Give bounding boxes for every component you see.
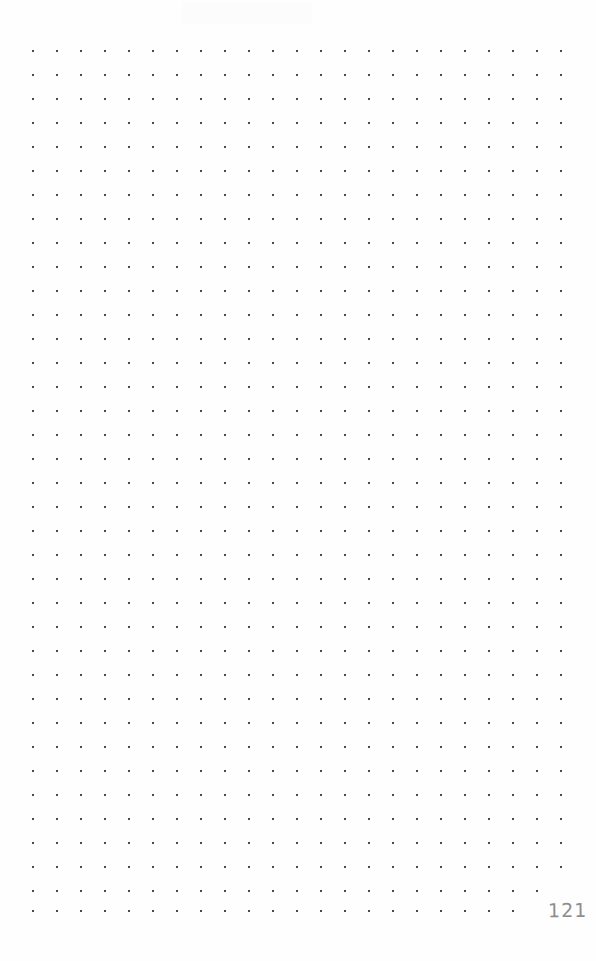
- grid-dot: [416, 266, 418, 268]
- grid-dot: [344, 458, 346, 460]
- grid-dot: [512, 818, 514, 820]
- grid-dot: [296, 50, 298, 52]
- grid-dot: [320, 554, 322, 556]
- grid-dot: [536, 74, 538, 76]
- grid-dot: [80, 770, 82, 772]
- grid-dot: [224, 626, 226, 628]
- grid-dot: [320, 674, 322, 676]
- grid-dot: [104, 626, 106, 628]
- grid-dot: [128, 746, 130, 748]
- grid-dot: [56, 146, 58, 148]
- grid-dot: [488, 530, 490, 532]
- grid-dot: [248, 554, 250, 556]
- grid-dot: [80, 554, 82, 556]
- grid-dot: [248, 890, 250, 892]
- grid-dot: [344, 722, 346, 724]
- grid-dot: [440, 434, 442, 436]
- grid-dot: [224, 194, 226, 196]
- grid-dot: [416, 842, 418, 844]
- grid-dot: [344, 266, 346, 268]
- grid-dot: [296, 122, 298, 124]
- grid-dot: [104, 842, 106, 844]
- grid-dot: [368, 506, 370, 508]
- grid-dot: [416, 602, 418, 604]
- grid-dot: [56, 410, 58, 412]
- grid-dot: [344, 770, 346, 772]
- grid-dot: [560, 434, 562, 436]
- grid-dot: [440, 650, 442, 652]
- grid-dot: [248, 818, 250, 820]
- grid-dot: [56, 362, 58, 364]
- grid-dot: [344, 314, 346, 316]
- grid-dot: [416, 314, 418, 316]
- grid-dot: [80, 458, 82, 460]
- grid-dot: [488, 266, 490, 268]
- grid-dot: [224, 890, 226, 892]
- grid-dot: [392, 722, 394, 724]
- grid-dot: [416, 386, 418, 388]
- grid-dot: [320, 866, 322, 868]
- grid-dot: [152, 554, 154, 556]
- grid-dot: [56, 386, 58, 388]
- grid-dot: [440, 530, 442, 532]
- grid-dot: [32, 458, 34, 460]
- grid-dot: [296, 338, 298, 340]
- grid-dot: [176, 98, 178, 100]
- grid-dot: [416, 650, 418, 652]
- grid-dot: [200, 74, 202, 76]
- grid-dot: [80, 266, 82, 268]
- grid-dot: [560, 458, 562, 460]
- grid-dot: [392, 242, 394, 244]
- grid-dot: [176, 410, 178, 412]
- grid-dot: [200, 722, 202, 724]
- grid-dot: [416, 698, 418, 700]
- grid-dot: [320, 194, 322, 196]
- grid-dot: [560, 770, 562, 772]
- grid-dot: [512, 482, 514, 484]
- grid-dot: [464, 506, 466, 508]
- grid-dot: [56, 554, 58, 556]
- grid-dot: [176, 266, 178, 268]
- grid-dot: [320, 530, 322, 532]
- grid-dot: [440, 194, 442, 196]
- grid-dot: [200, 698, 202, 700]
- grid-dot: [296, 554, 298, 556]
- grid-dot: [296, 290, 298, 292]
- grid-dot: [176, 386, 178, 388]
- grid-dot: [80, 338, 82, 340]
- grid-dot: [272, 842, 274, 844]
- grid-dot: [560, 362, 562, 364]
- grid-dot: [56, 770, 58, 772]
- grid-dot: [248, 650, 250, 652]
- grid-dot: [344, 602, 346, 604]
- grid-dot: [296, 890, 298, 892]
- grid-dot: [176, 722, 178, 724]
- grid-dot: [200, 746, 202, 748]
- grid-dot: [560, 650, 562, 652]
- grid-dot: [224, 602, 226, 604]
- grid-dot: [560, 722, 562, 724]
- grid-dot: [512, 50, 514, 52]
- grid-dot: [464, 650, 466, 652]
- grid-dot: [368, 458, 370, 460]
- grid-dot: [128, 674, 130, 676]
- grid-dot: [32, 890, 34, 892]
- grid-dot: [248, 482, 250, 484]
- grid-dot: [80, 146, 82, 148]
- grid-dot: [176, 194, 178, 196]
- grid-dot: [248, 338, 250, 340]
- grid-dot: [128, 578, 130, 580]
- grid-dot: [368, 722, 370, 724]
- grid-dot: [224, 578, 226, 580]
- grid-dot: [536, 746, 538, 748]
- grid-dot: [344, 242, 346, 244]
- grid-dot: [32, 50, 34, 52]
- grid-dot: [344, 218, 346, 220]
- grid-dot: [80, 434, 82, 436]
- grid-dot: [128, 794, 130, 796]
- grid-dot: [488, 410, 490, 412]
- grid-dot: [536, 218, 538, 220]
- grid-dot: [32, 410, 34, 412]
- grid-dot: [104, 170, 106, 172]
- grid-dot: [488, 698, 490, 700]
